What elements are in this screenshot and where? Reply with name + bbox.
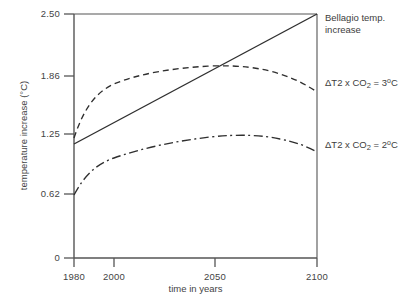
x-tick-label-2050: 2050: [189, 271, 241, 282]
legend-co2-3c: ΔT2 x CO2 = 3oC: [325, 75, 398, 91]
legend-bellagio-line1: Bellagio temp.: [325, 12, 385, 23]
legend-bellagio-line2: increase: [325, 24, 361, 35]
legend-co2-3c-mid: = 3: [371, 77, 387, 88]
legend-co2-3c-suffix: C: [391, 77, 398, 88]
y-tick-label-1-86: 1.86: [2, 70, 60, 81]
y-tick-label-2-50: 2.50: [2, 8, 60, 19]
y-axis-ticks: [64, 14, 74, 258]
legend-bellagio: Bellagio temp. increase: [325, 12, 385, 35]
y-axis-title: temperature increase (°C): [18, 51, 29, 221]
legend-co2-2c-prefix: ΔT2 x CO: [325, 139, 367, 150]
y-tick-label-0-62: 0.62: [2, 188, 60, 199]
plot-frame: [74, 14, 317, 258]
chart-figure: 2.50 1.86 1.25 0.62 0 1980 2000 2050 210…: [0, 0, 408, 301]
x-axis-ticks: [74, 258, 317, 267]
series-co2-3c-line: [74, 66, 317, 138]
y-tick-label-0: 0: [2, 252, 60, 263]
legend-co2-3c-prefix: ΔT2 x CO: [325, 77, 367, 88]
y-tick-label-1-25: 1.25: [2, 128, 60, 139]
series-bellagio-line: [74, 14, 317, 144]
series-co2-2c-line: [74, 135, 317, 195]
legend-co2-2c: ΔT2 x CO2 = 2oC: [325, 137, 398, 153]
x-tick-label-2000: 2000: [88, 271, 140, 282]
legend-co2-2c-suffix: C: [391, 139, 398, 150]
x-axis-title: time in years: [74, 283, 317, 294]
x-tick-label-2100: 2100: [291, 271, 343, 282]
legend-co2-2c-mid: = 2: [371, 139, 387, 150]
